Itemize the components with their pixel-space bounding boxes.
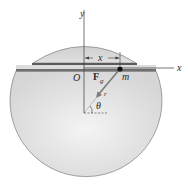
sphere-upper-cap <box>33 47 136 64</box>
sphere-lower-body <box>10 71 162 177</box>
radius-label: r <box>104 90 107 98</box>
origin-label: O <box>73 72 80 83</box>
displacement-label: x <box>97 52 103 63</box>
x-axis-label: x <box>176 62 182 73</box>
force-subscript: g <box>100 77 104 85</box>
mass-label: m <box>122 71 129 82</box>
tunnel-band <box>16 69 156 72</box>
angle-label: θ <box>96 100 101 111</box>
tunnel-gap <box>16 65 156 69</box>
tunnel-plate-top <box>32 63 137 65</box>
force-label: F <box>93 71 99 82</box>
y-axis-label: y <box>79 8 85 19</box>
tunnel-through-earth-diagram: y x x O F g m r θ <box>0 0 188 195</box>
